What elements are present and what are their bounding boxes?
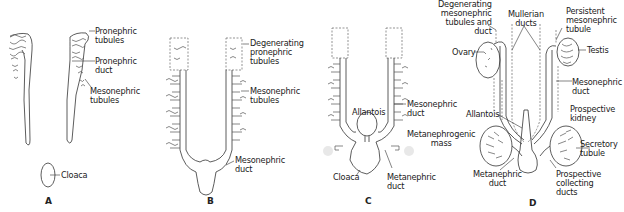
label-mesonephric-duct-c: Mesonephric duct — [407, 100, 457, 118]
label-metanephric-duct-c: Metanephric duct — [387, 173, 436, 191]
label-ovary: Ovary — [452, 48, 476, 57]
panel-a-right-duct — [67, 33, 89, 143]
label-prospective-collecting-ducts: Prospective collecting ducts — [556, 170, 601, 197]
label-mesonephric-duct-d: Mesonephric duct — [572, 78, 622, 96]
label-secretory-tubule: Secretory tubule — [580, 140, 618, 158]
label-degenerating-mesonephric-tubules-and-duct: Degenerating mesonephric tubules and duc… — [438, 0, 492, 36]
label-cloaca-a: Cloaca — [61, 171, 87, 180]
label-pronephric-tubules: Pronephric tubules — [95, 27, 137, 45]
label-degenerating-pronephric-tubules: Degenerating pronephric tubules — [250, 39, 304, 66]
label-metanephrogenic-mass: Metanephrogenic mass — [407, 130, 475, 148]
label-mullerian-ducts: Mullerian ducts — [508, 10, 544, 28]
panel-label-a: A — [45, 196, 52, 206]
label-cloaca-c: Cloaca — [333, 173, 359, 182]
label-prospective-kidney: Prospective kidney — [570, 105, 615, 123]
label-allantois-d: Allantois — [466, 110, 499, 119]
label-testis: Testis — [587, 46, 608, 55]
panel-a-left-duct — [9, 33, 32, 144]
panel-c-left-metanephrogenic-mass — [323, 146, 333, 156]
panel-label-b: B — [207, 196, 214, 206]
panel-d-structures — [476, 24, 582, 173]
label-mesonephric-duct-b: Mesonephric duct — [235, 156, 285, 174]
label-persistent-mesonephric-tubule: Persistent mesonephric tubule — [566, 7, 617, 34]
panel-label-c: C — [365, 196, 372, 206]
label-allantois-c: Allantois — [352, 108, 385, 117]
panel-c-ducts — [328, 28, 408, 174]
kidney-development-diagram: Pronephric tubules Pronephric duct Meson… — [0, 0, 624, 212]
panel-b-ducts — [166, 38, 246, 195]
label-pronephric-duct: Pronephric duct — [95, 57, 137, 75]
diagram-drawing — [0, 0, 624, 212]
panel-label-d: D — [529, 198, 536, 208]
label-mesonephric-tubules-b: Mesonephric tubules — [250, 87, 300, 105]
label-mesonephric-tubules-a: Mesonephric tubules — [90, 87, 140, 105]
label-metanephric-duct-d: Metanephric duct — [473, 170, 522, 188]
